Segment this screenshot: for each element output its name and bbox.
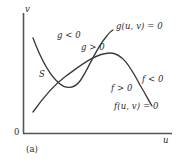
f-nullcline-label: f(u, v) = 0 [114,102,159,111]
g-nullcline-label: g(u, v) = 0 [116,22,163,31]
g-negative-region-label: g < 0 [57,31,81,40]
x-axis-label: u [163,136,169,145]
origin-label: 0 [14,128,20,137]
y-axis-label: v [25,5,30,14]
figure-caption: (a) [26,145,38,154]
intersection-point-label: S [39,70,45,79]
figure-container: v u 0 g < 0 g > 0 g(u, v) = 0 f > 0 f < … [0,0,180,163]
f-negative-region-label: f < 0 [142,75,164,84]
f-positive-region-label: f > 0 [111,84,133,93]
g-positive-region-label: g > 0 [81,43,105,52]
